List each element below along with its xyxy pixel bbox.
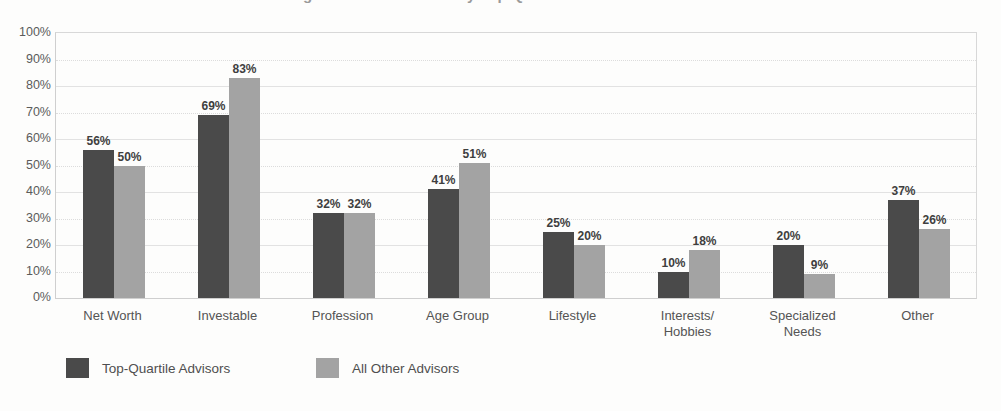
bar-value-label: 9% xyxy=(800,259,840,272)
gridline xyxy=(56,60,976,62)
y-axis-tick-label: 70% xyxy=(5,106,51,118)
bar[interactable] xyxy=(658,272,689,299)
x-axis-category-label: Other xyxy=(853,308,983,324)
bar[interactable] xyxy=(114,166,145,299)
bar-value-label: 50% xyxy=(110,151,150,164)
y-axis-tick-label: 50% xyxy=(5,159,51,171)
legend-item-top-quartile-advisors: Top-Quartile Advisors xyxy=(66,358,230,378)
x-axis-category-label: Lifestyle xyxy=(508,308,638,324)
y-axis-tick-label: 90% xyxy=(5,53,51,65)
bar-value-label: 32% xyxy=(340,198,380,211)
bar-value-label: 51% xyxy=(455,148,495,161)
x-axis-category-label: Investable xyxy=(163,308,293,324)
gridline xyxy=(56,166,976,168)
bar-value-label: 83% xyxy=(225,63,265,76)
bar-value-label: 20% xyxy=(769,230,809,243)
x-axis-category-label: Net Worth xyxy=(48,308,178,324)
bar-value-label: 10% xyxy=(654,257,694,270)
y-axis-tick-label: 30% xyxy=(5,212,51,224)
legend-swatch-icon xyxy=(66,358,89,378)
gridline xyxy=(56,86,976,87)
x-axis-category-label: Age Group xyxy=(393,308,523,324)
y-axis-tick-label: 100% xyxy=(5,26,51,38)
bar-value-label: 18% xyxy=(685,235,725,248)
y-axis-tick-label: 20% xyxy=(5,238,51,250)
x-axis-category-label: Specialized Needs xyxy=(738,308,868,340)
bar-group: 25%20% xyxy=(543,33,605,298)
bar[interactable] xyxy=(689,250,720,298)
gridline xyxy=(56,192,976,193)
legend-label: All Other Advisors xyxy=(352,361,459,376)
y-axis-tick-label: 80% xyxy=(5,79,51,91)
plot-area: 56%50%69%83%32%32%41%51%25%20%10%18%20%9… xyxy=(55,32,977,299)
y-axis: 100%90%80%70%60%50%40%30%20%10%0% xyxy=(0,0,51,411)
bar-group: 41%51% xyxy=(428,33,490,298)
x-axis-category-label: Profession xyxy=(278,308,408,324)
bar[interactable] xyxy=(229,78,260,298)
chart-title-clipped: Segmentation Methods by Top-Quartile and… xyxy=(0,0,1001,11)
bar[interactable] xyxy=(428,189,459,298)
bar[interactable] xyxy=(313,213,344,298)
gridline xyxy=(56,139,976,140)
x-axis-category-label: Interests/ Hobbies xyxy=(623,308,753,340)
bar[interactable] xyxy=(198,115,229,298)
bar-group: 37%26% xyxy=(888,33,950,298)
bar[interactable] xyxy=(83,150,114,298)
bar-value-label: 26% xyxy=(915,214,955,227)
gridline xyxy=(56,245,976,246)
chart-figure: Segmentation Methods by Top-Quartile and… xyxy=(0,0,1001,411)
bar[interactable] xyxy=(344,213,375,298)
bar-group: 20%9% xyxy=(773,33,835,298)
bar[interactable] xyxy=(919,229,950,298)
bar-value-label: 37% xyxy=(884,185,924,198)
y-axis-tick-label: 40% xyxy=(5,185,51,197)
y-axis-tick-label: 0% xyxy=(5,291,51,303)
bar[interactable] xyxy=(804,274,835,298)
bar-value-label: 41% xyxy=(424,174,464,187)
bar-value-label: 69% xyxy=(194,100,234,113)
y-axis-tick-label: 60% xyxy=(5,132,51,144)
bar-group: 10%18% xyxy=(658,33,720,298)
bar-group: 32%32% xyxy=(313,33,375,298)
legend-label: Top-Quartile Advisors xyxy=(102,361,230,376)
y-axis-tick-label: 10% xyxy=(5,265,51,277)
chart-title: Segmentation Methods by Top-Quartile and… xyxy=(0,0,1001,3)
legend-swatch-icon xyxy=(316,358,339,378)
bar-value-label: 20% xyxy=(570,230,610,243)
chart-legend: Top-Quartile Advisors All Other Advisors xyxy=(0,358,1001,398)
legend-item-all-other-advisors: All Other Advisors xyxy=(316,358,459,378)
bar[interactable] xyxy=(574,245,605,298)
gridline xyxy=(56,219,976,221)
bar-value-label: 25% xyxy=(539,217,579,230)
bar-group: 56%50% xyxy=(83,33,145,298)
bar[interactable] xyxy=(459,163,490,298)
bar-group: 69%83% xyxy=(198,33,260,298)
bar-value-label: 56% xyxy=(79,135,119,148)
